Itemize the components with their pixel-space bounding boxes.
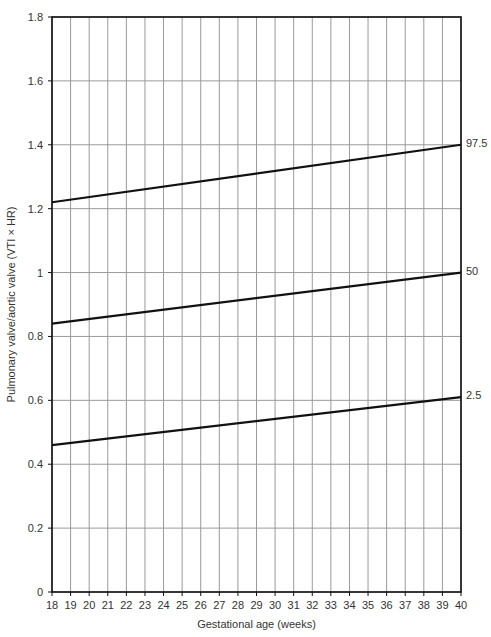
y-tick-label: 0.6	[28, 394, 43, 406]
percentile-label: 50	[466, 265, 478, 277]
percentile-label: 97.5	[466, 137, 487, 149]
x-tick-label: 31	[288, 599, 300, 611]
x-tick-label: 25	[176, 599, 188, 611]
x-tick-label: 40	[455, 599, 467, 611]
x-tick-label: 30	[269, 599, 281, 611]
chart: 1819202122232425262728293031323334353637…	[0, 0, 491, 637]
x-tick-label: 34	[343, 599, 355, 611]
y-tick-label: 1	[37, 267, 43, 279]
y-tick-label: 1.6	[28, 75, 43, 87]
x-tick-label: 35	[362, 599, 374, 611]
x-tick-label: 20	[83, 599, 95, 611]
x-tick-label: 21	[102, 599, 114, 611]
x-tick-label: 18	[46, 599, 58, 611]
percentile-lines: 97.5502.5	[52, 137, 487, 445]
x-tick-label: 27	[213, 599, 225, 611]
x-axis-ticks: 1819202122232425262728293031323334353637…	[46, 592, 467, 611]
x-tick-label: 32	[306, 599, 318, 611]
x-tick-label: 24	[157, 599, 169, 611]
x-tick-label: 37	[399, 599, 411, 611]
y-tick-label: 0.8	[28, 330, 43, 342]
x-axis-title: Gestational age (weeks)	[197, 618, 316, 630]
y-tick-label: 0.2	[28, 522, 43, 534]
x-tick-label: 28	[232, 599, 244, 611]
y-axis-title: Pulmonary valve/aortic valve (VTI × HR)	[5, 207, 17, 403]
y-tick-label: 1.2	[28, 203, 43, 215]
x-tick-label: 38	[418, 599, 430, 611]
x-tick-label: 23	[139, 599, 151, 611]
x-tick-label: 29	[250, 599, 262, 611]
x-tick-label: 19	[64, 599, 76, 611]
x-tick-label: 33	[325, 599, 337, 611]
x-tick-label: 26	[195, 599, 207, 611]
y-tick-label: 1.8	[28, 11, 43, 23]
percentile-label: 2.5	[466, 389, 481, 401]
y-tick-label: 0	[37, 586, 43, 598]
x-tick-label: 22	[120, 599, 132, 611]
gridlines	[52, 17, 461, 592]
y-axis-ticks: 00.20.40.60.811.21.41.61.8	[28, 11, 52, 598]
y-tick-label: 0.4	[28, 458, 43, 470]
x-tick-label: 36	[381, 599, 393, 611]
y-tick-label: 1.4	[28, 139, 43, 151]
x-tick-label: 39	[436, 599, 448, 611]
